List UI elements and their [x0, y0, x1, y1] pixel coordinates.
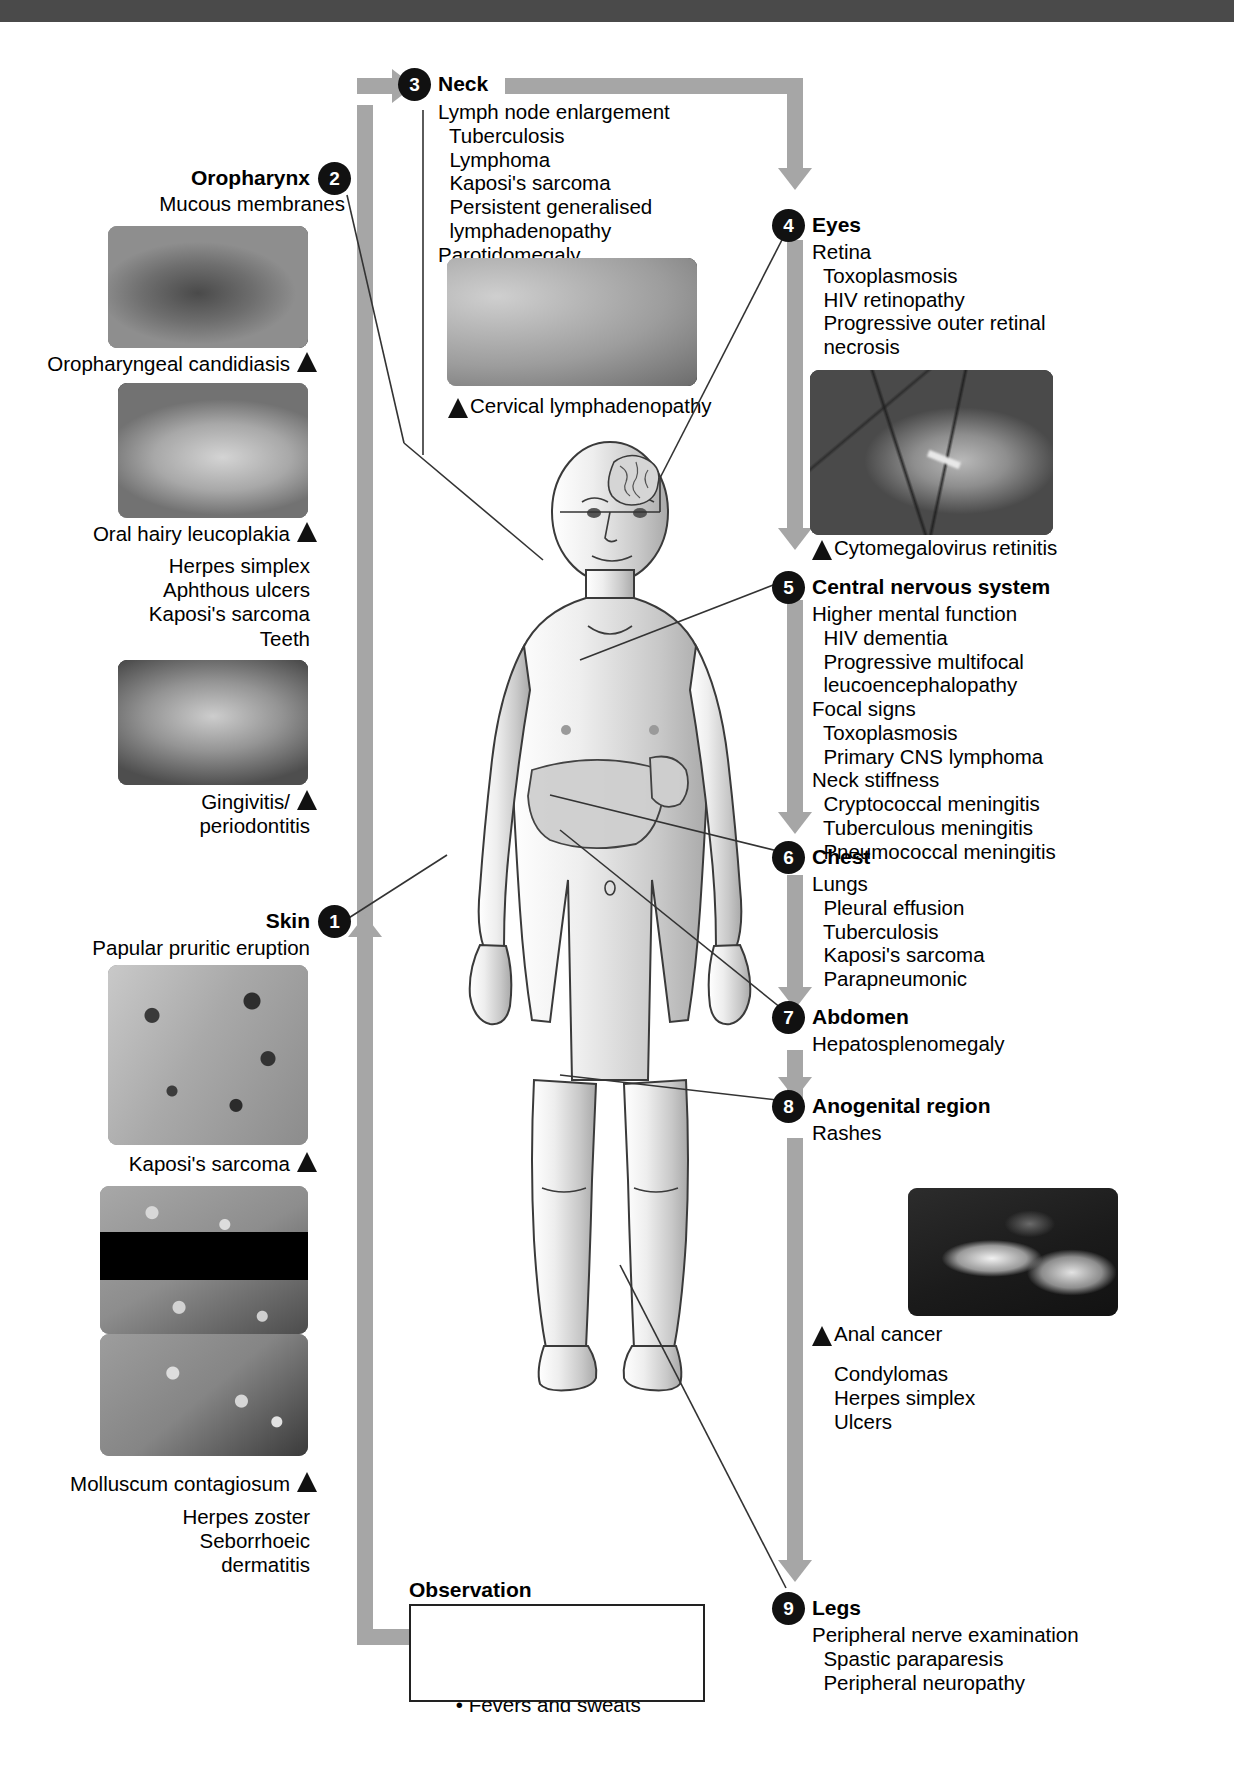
heading-abdomen: Abdomen: [812, 1005, 909, 1029]
caption-molluscum-contagiosum: Molluscum contagiosum: [0, 1472, 290, 1496]
flow-arrow-left-riser: [357, 105, 373, 1645]
flow-arrow-eyes-drop: [787, 78, 803, 178]
heading-skin: Skin: [0, 909, 310, 933]
photo-oral-hairy-leucoplakia: [118, 383, 308, 518]
list-skin: Papular pruritic eruption: [0, 936, 310, 960]
list-cns: Higher mental function HIV dementia Prog…: [812, 602, 1056, 863]
list-eyes: Retina Toxoplasmosis HIV retinopathy Pro…: [812, 240, 1046, 359]
photo-oropharyngeal-candidiasis: [108, 226, 308, 348]
marker-triangle-neck: [448, 398, 468, 418]
marker-triangle-kaposis: [297, 1152, 317, 1172]
list-anogenital-tail: Condylomas Herpes simplex Ulcers: [834, 1362, 975, 1433]
list-anogenital: Rashes: [812, 1121, 882, 1145]
list-legs: Peripheral nerve examination Spastic par…: [812, 1623, 1079, 1694]
heading-legs: Legs: [812, 1596, 861, 1620]
marker-skin[interactable]: 1: [318, 905, 351, 938]
photo-molluscum-contagiosum: [100, 1186, 308, 1334]
flow-arrow-up-head: [348, 915, 382, 937]
caption-anal-cancer: Anal cancer: [834, 1322, 942, 1346]
photo-molluscum-contagiosum-lower: [100, 1334, 308, 1456]
photo-redaction-bar: [100, 1232, 308, 1280]
marker-legs[interactable]: 9: [772, 1592, 805, 1625]
marker-oropharynx[interactable]: 2: [318, 162, 351, 195]
caption-oropharyngeal-candidiasis: Oropharyngeal candidiasis: [0, 352, 290, 376]
top-banner: [0, 0, 1234, 22]
flow-arrow-top-elbow: [357, 105, 373, 119]
flow-arrow-down-head-eyes: [778, 168, 812, 190]
marker-anogenital[interactable]: 8: [772, 1090, 805, 1123]
human-body-illustration: [400, 440, 820, 1440]
marker-triangle-molluscum: [297, 1472, 317, 1492]
heading-chest: Chest: [812, 845, 870, 869]
observation-box: [409, 1604, 705, 1702]
marker-cns[interactable]: 5: [772, 571, 805, 604]
marker-eyes[interactable]: 4: [772, 209, 805, 242]
heading-anogenital: Anogenital region: [812, 1094, 991, 1118]
photo-kaposis-sarcoma-skin: [108, 965, 308, 1145]
caption-cervical-lymphadenopathy: Cervical lymphadenopathy: [470, 394, 712, 418]
marker-neck[interactable]: 3: [398, 68, 431, 101]
marker-abdomen[interactable]: 7: [772, 1001, 805, 1034]
heading-observation: Observation: [409, 1578, 532, 1602]
marker-chest[interactable]: 6: [772, 841, 805, 874]
caption-gingivitis: Gingivitis/: [0, 790, 290, 814]
caption-kaposis-sarcoma-skin: Kaposi's sarcoma: [0, 1152, 290, 1176]
list-chest: Lungs Pleural effusion Tuberculosis Kapo…: [812, 872, 985, 991]
caption-periodontitis: periodontitis: [0, 814, 310, 838]
photo-anal-cancer: [908, 1188, 1118, 1316]
photo-cytomegalovirus-retinitis: [810, 370, 1053, 535]
flow-arrow-neck-to-eyes: [505, 78, 803, 94]
list-abdomen: Hepatosplenomegaly: [812, 1032, 1005, 1056]
marker-triangle-candidiasis: [297, 352, 317, 372]
heading-eyes: Eyes: [812, 213, 861, 237]
heading-neck: Neck: [438, 72, 488, 96]
list-skin-tail: Herpes zoster Seborrhoeic dermatitis: [0, 1505, 310, 1576]
flow-arrow-down-head-legs: [778, 1560, 812, 1582]
heading-cns: Central nervous system: [812, 575, 1050, 599]
marker-triangle-leucoplakia: [297, 522, 317, 542]
list-oropharynx: Herpes simplex Aphthous ulcers Kaposi's …: [0, 554, 310, 625]
photo-cervical-lymphadenopathy: [447, 258, 697, 386]
heading-oropharynx: Oropharynx: [0, 166, 310, 190]
list-neck: Lymph node enlargement Tuberculosis Lymp…: [438, 100, 670, 266]
caption-cytomegalovirus-retinitis: Cytomegalovirus retinitis: [834, 536, 1057, 560]
label-teeth: Teeth: [0, 627, 310, 651]
marker-triangle-gingivitis: [297, 790, 317, 810]
caption-oral-hairy-leucoplakia: Oral hairy leucoplakia: [0, 522, 290, 546]
subheading-oropharynx: Mucous membranes: [0, 192, 345, 216]
photo-gingivitis-periodontitis: [118, 660, 308, 785]
